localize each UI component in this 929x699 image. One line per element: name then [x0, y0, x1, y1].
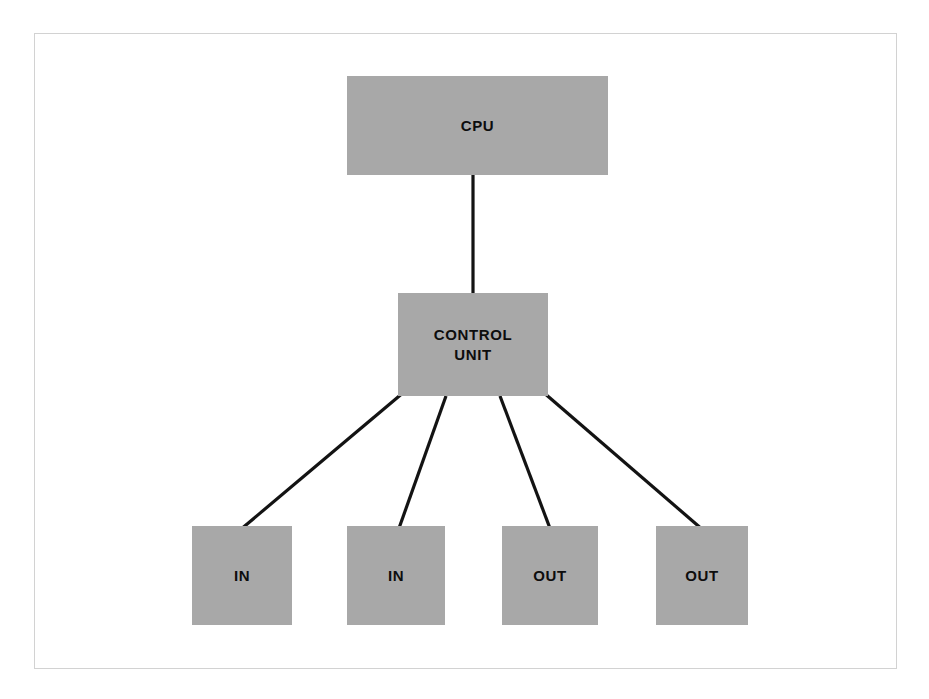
node-in-1[interactable]: IN [192, 526, 292, 625]
node-cpu[interactable]: CPU [347, 76, 608, 175]
diagram-canvas: CPU CONTROL UNIT IN IN OUT OUT [0, 0, 929, 699]
node-out-1[interactable]: OUT [502, 526, 598, 625]
edge-control-unit-to-out-1 [500, 396, 551, 531]
node-in-2-label: IN [388, 566, 404, 585]
node-in-1-label: IN [234, 566, 250, 585]
node-out-2-label: OUT [685, 566, 718, 585]
node-cpu-label: CPU [461, 116, 494, 135]
edge-control-unit-to-in-1 [240, 392, 404, 530]
edge-control-unit-to-in-2 [398, 396, 446, 531]
node-control-unit[interactable]: CONTROL UNIT [398, 293, 548, 396]
edge-control-unit-to-out-2 [543, 392, 703, 530]
node-control-unit-label-line2: UNIT [454, 346, 491, 363]
node-out-2[interactable]: OUT [656, 526, 748, 625]
node-out-1-label: OUT [533, 566, 566, 585]
node-control-unit-label: CONTROL UNIT [434, 325, 512, 363]
node-control-unit-label-line1: CONTROL [434, 326, 512, 343]
node-in-2[interactable]: IN [347, 526, 445, 625]
